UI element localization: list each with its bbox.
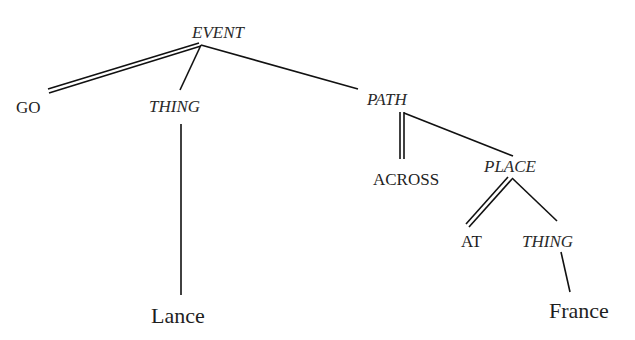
edge-thing-france [561,252,570,292]
tree-svg: EVENT GO THING PATH ACROSS PLACE AT THIN… [0,0,635,340]
node-path: PATH [366,90,408,109]
edge-path-place [404,113,513,156]
node-go: GO [16,98,41,117]
node-france: France [549,298,609,323]
edge-path-across [400,112,404,159]
node-thing: THING [149,97,200,116]
node-place: PLACE [483,157,537,176]
node-lance: Lance [151,303,205,328]
edge-event-path [201,45,358,89]
edge-event-go [48,43,201,93]
node-event: EVENT [191,23,245,42]
edge-place-thing [512,178,557,221]
node-at: AT [461,232,482,251]
node-across: ACROSS [373,170,439,189]
node-thing-2: THING [522,232,573,251]
edge-place-at [466,177,512,227]
conceptual-structure-diagram: EVENT GO THING PATH ACROSS PLACE AT THIN… [0,0,635,340]
